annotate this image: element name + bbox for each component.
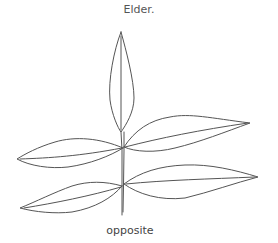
diagram-caption: opposite [80,224,180,237]
lower-left-leaflet [20,182,122,213]
upper-left-leaflet [17,139,123,168]
stem-edge [123,132,124,212]
terminal-leaflet [110,32,134,132]
leaf-drawing [0,0,278,243]
lower-right-leaflet [124,165,258,199]
stem [121,132,122,215]
lower-left-leaflet-midrib [24,187,121,208]
